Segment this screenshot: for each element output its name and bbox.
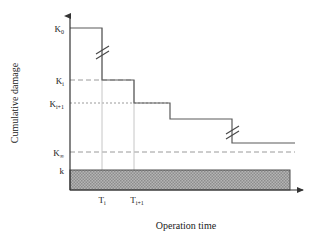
x-tick-Ti1: Ti+1 <box>130 195 144 206</box>
y-tick-Ki1: Ki+1 <box>49 99 64 110</box>
y-tick-Kinf: K∞ <box>53 148 64 159</box>
gridlines <box>70 80 295 152</box>
y-tick-Ki: Ki <box>56 76 65 87</box>
x-tick-Ti: Ti <box>98 195 106 206</box>
cumulative-damage-step-diagram: K0 Ki Ki+1 K∞ k Ti Ti+1 Operation time C… <box>0 0 323 235</box>
x-axis-title: Operation time <box>156 220 217 231</box>
x-tick-labels: Ti Ti+1 <box>98 195 143 206</box>
y-tick-k: k <box>60 166 65 176</box>
y-tick-K0: K0 <box>55 24 65 35</box>
step-curve <box>70 28 295 143</box>
diagram-canvas: K0 Ki Ki+1 K∞ k Ti Ti+1 Operation time C… <box>0 0 323 235</box>
y-tick-labels: K0 Ki Ki+1 K∞ k <box>49 24 64 176</box>
shaded-band-k <box>70 170 290 190</box>
axes <box>70 16 303 190</box>
y-axis-title: Cumulative damage <box>9 62 20 143</box>
